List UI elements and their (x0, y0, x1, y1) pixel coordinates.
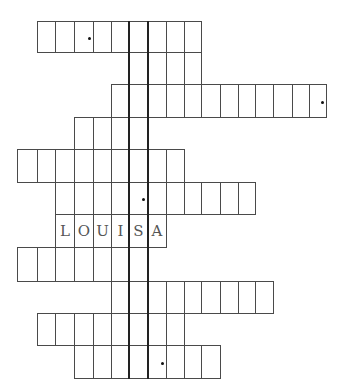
grid-cell[interactable] (37, 21, 56, 53)
grid-cell[interactable] (184, 52, 202, 85)
grid-cell[interactable] (55, 247, 75, 282)
grid-cell[interactable] (166, 281, 185, 314)
grid-cell[interactable] (74, 182, 94, 215)
grid-cell[interactable] (201, 345, 221, 379)
grid-cell[interactable] (166, 313, 185, 346)
grid-cell[interactable] (129, 182, 148, 215)
grid-cell[interactable] (166, 52, 185, 85)
grid-cell[interactable] (93, 247, 112, 282)
marker-dot-icon (161, 362, 164, 365)
key-column-right-border (147, 21, 149, 379)
grid-cell[interactable] (129, 52, 148, 85)
grid-cell[interactable] (129, 313, 148, 346)
grid-cell[interactable] (147, 52, 167, 85)
grid-cell[interactable]: O (74, 214, 94, 248)
grid-cell[interactable] (166, 345, 185, 379)
marker-dot-icon (321, 101, 324, 104)
grid-cell[interactable] (238, 182, 256, 215)
crossword-grid: LOUISA (0, 0, 349, 384)
grid-cell[interactable] (147, 149, 167, 183)
grid-cell[interactable] (147, 281, 167, 314)
grid-cell[interactable] (55, 21, 75, 53)
grid-cell[interactable] (201, 182, 221, 215)
grid-cell[interactable] (255, 84, 274, 118)
marker-dot-icon (142, 198, 145, 201)
grid-cell[interactable] (129, 345, 148, 379)
grid-cell[interactable] (93, 182, 112, 215)
grid-cell[interactable] (74, 313, 94, 346)
grid-cell[interactable] (309, 84, 327, 118)
grid-cell[interactable]: L (55, 214, 75, 248)
grid-cell[interactable] (93, 313, 112, 346)
grid-cell[interactable] (129, 247, 148, 282)
grid-cell[interactable] (17, 247, 38, 282)
grid-cell[interactable] (184, 21, 202, 53)
grid-cell[interactable] (147, 84, 167, 118)
grid-cell[interactable] (74, 247, 94, 282)
grid-cell[interactable] (74, 117, 94, 150)
grid-cell[interactable] (55, 313, 75, 346)
grid-cell[interactable] (238, 84, 256, 118)
grid-cell[interactable] (184, 182, 202, 215)
grid-cell[interactable] (147, 182, 167, 215)
grid-cell[interactable] (37, 313, 56, 346)
grid-cell[interactable] (74, 149, 94, 183)
grid-cell[interactable] (93, 21, 112, 53)
grid-cell[interactable] (201, 281, 221, 314)
grid-cell[interactable] (129, 281, 148, 314)
grid-cell[interactable] (220, 84, 239, 118)
grid-cell[interactable] (55, 182, 75, 215)
grid-cell[interactable]: A (147, 214, 167, 248)
grid-cell[interactable] (74, 21, 94, 53)
grid-cell[interactable] (37, 247, 56, 282)
grid-cell[interactable] (74, 345, 94, 379)
grid-cell[interactable] (93, 149, 112, 183)
grid-cell[interactable] (184, 281, 202, 314)
grid-cell[interactable] (37, 149, 56, 183)
grid-cell[interactable] (166, 84, 185, 118)
grid-cell[interactable] (93, 117, 112, 150)
grid-cell[interactable] (220, 182, 239, 215)
grid-cell[interactable]: U (93, 214, 112, 248)
grid-cell[interactable] (166, 149, 185, 183)
grid-cell[interactable] (184, 345, 202, 379)
grid-cell[interactable] (129, 21, 148, 53)
grid-cell[interactable] (238, 281, 256, 314)
grid-cell[interactable] (55, 149, 75, 183)
grid-cell[interactable] (201, 84, 221, 118)
grid-cell[interactable] (220, 281, 239, 314)
marker-dot-icon (88, 37, 91, 40)
grid-cell[interactable] (147, 21, 167, 53)
grid-cell[interactable] (129, 117, 148, 150)
grid-cell[interactable] (129, 149, 148, 183)
grid-cell[interactable] (147, 345, 167, 379)
grid-cell[interactable] (255, 281, 274, 314)
grid-cell[interactable] (184, 84, 202, 118)
grid-cell[interactable] (166, 182, 185, 215)
grid-cell[interactable] (166, 21, 185, 53)
grid-cell[interactable] (17, 149, 38, 183)
key-column-left-border (128, 21, 130, 379)
grid-cell[interactable] (93, 345, 112, 379)
grid-cell[interactable] (129, 84, 148, 118)
grid-cell[interactable] (292, 84, 310, 118)
grid-cell[interactable] (147, 313, 167, 346)
grid-cell[interactable] (273, 84, 293, 118)
grid-cell[interactable]: S (129, 214, 148, 248)
